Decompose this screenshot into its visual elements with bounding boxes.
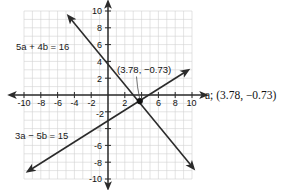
x-tick-label: -10 (17, 98, 30, 108)
y-tick-label: -8 (94, 158, 102, 168)
equation-label-line1: 5a + 4b = 16 (16, 41, 69, 52)
y-tick-label: -6 (94, 141, 102, 151)
coordinate-graph: -10 -8 -6 -4 -2 2 4 6 8 10 10 8 6 4 2 -2… (0, 0, 294, 190)
x-tick-label: -8 (37, 98, 45, 108)
graph-stage: -10 -8 -6 -4 -2 2 4 6 8 10 10 8 6 4 2 -2… (0, 0, 294, 190)
y-tick-label: -10 (89, 174, 102, 184)
intersection-point (137, 98, 143, 104)
y-tick-label: 6 (97, 40, 102, 50)
y-tick-label: 8 (97, 23, 102, 33)
x-tick-label: 8 (173, 98, 178, 108)
equation-label-line2: 3a − 5b = 15 (15, 130, 68, 141)
x-tick-label: 6 (156, 98, 161, 108)
y-tick-label: 4 (97, 57, 102, 67)
x-tick-label: -4 (71, 98, 79, 108)
x-tick-label: -2 (87, 98, 95, 108)
y-tick-label: 10 (92, 6, 102, 16)
y-tick-label: 2 (97, 74, 102, 84)
x-tick-label: -6 (54, 98, 62, 108)
y-tick-label: -2 (96, 109, 104, 119)
x-tick-label: 2 (122, 98, 127, 108)
x-tick-label: 10 (186, 98, 196, 108)
answer-label: a; (3.78, −0.73) (205, 89, 276, 102)
intersection-point-label: (3.78, −0.73) (117, 64, 171, 75)
